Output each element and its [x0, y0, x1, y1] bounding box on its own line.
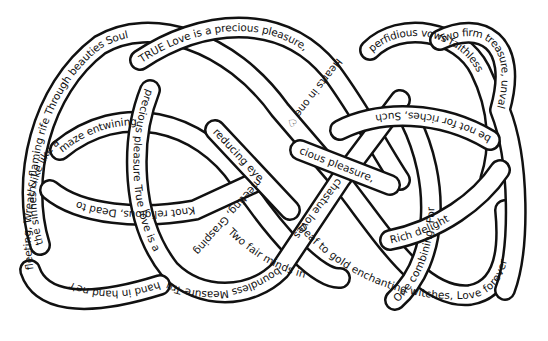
knot-artwork: the sinnes & flaming rife Through beauti…: [0, 0, 548, 341]
knot-drawing: the sinnes & flaming rife Through beauti…: [0, 0, 548, 341]
